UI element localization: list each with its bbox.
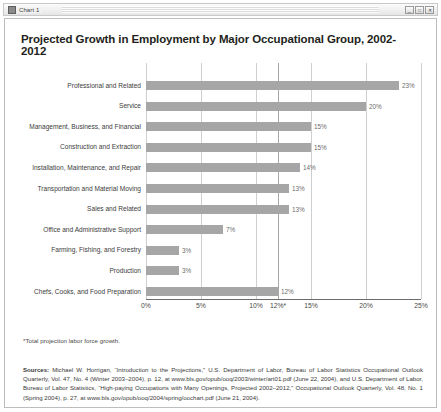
bars-area: 0%5%10%12%*15%20%25%23%20%15%15%14%13%13… <box>146 63 421 307</box>
bar-value-label: 20% <box>369 102 382 111</box>
bar-row[interactable]: 23% <box>146 81 421 90</box>
footnote: *Total projection labor force growth. <box>23 337 120 344</box>
bar[interactable] <box>146 246 179 255</box>
bar-value-label: 7% <box>226 225 235 234</box>
bar-row[interactable]: 13% <box>146 205 421 214</box>
bar[interactable] <box>146 225 223 234</box>
x-tick-label: 5% <box>196 302 206 309</box>
bar[interactable] <box>146 81 399 90</box>
bar-row[interactable]: 15% <box>146 122 421 131</box>
category-label: Office and Administrative Support <box>23 226 141 234</box>
x-tick-label: 0% <box>141 302 151 309</box>
bar-row[interactable]: 14% <box>146 163 421 172</box>
category-label: Chefs, Cooks, and Food Preparation <box>23 288 141 296</box>
gridline-20 <box>366 63 367 299</box>
sources-note: Sources: Michael W. Horrigan, “Introduct… <box>23 365 423 402</box>
bar-row[interactable]: 3% <box>146 246 421 255</box>
x-tick-label: 10% <box>249 302 263 309</box>
bar[interactable] <box>146 102 366 111</box>
bar-row[interactable]: 13% <box>146 184 421 193</box>
bar-value-label: 13% <box>292 205 305 214</box>
window-titlebar[interactable]: Chart 1 _ □ ✕ <box>3 3 438 16</box>
axis-baseline <box>146 299 421 300</box>
gridline-15 <box>311 63 312 299</box>
category-axis: Professional and RelatedServiceManagemen… <box>23 63 143 307</box>
category-label: Management, Business, and Financial <box>23 123 141 131</box>
x-tick-label: 25% <box>414 302 428 309</box>
category-label: Construction and Extraction <box>23 143 141 151</box>
bar[interactable] <box>146 143 311 152</box>
gridline-10 <box>256 63 257 299</box>
bar-value-label: 13% <box>292 184 305 193</box>
bar-row[interactable]: 20% <box>146 102 421 111</box>
gridline-12 <box>278 63 279 299</box>
titlebar-stripes <box>62 6 379 13</box>
x-tick-label: 12%* <box>270 302 286 309</box>
bar[interactable] <box>146 205 289 214</box>
chart-container: Projected Growth in Employment by Major … <box>4 18 437 408</box>
gridline-25 <box>421 63 422 299</box>
category-label: Transportation and Material Moving <box>23 185 141 193</box>
gridline-0 <box>146 63 147 299</box>
plot-area: Professional and RelatedServiceManagemen… <box>23 63 421 311</box>
maximize-button[interactable]: □ <box>415 6 424 14</box>
category-label: Sales and Related <box>23 205 141 213</box>
bar-value-label: 3% <box>182 246 191 255</box>
close-button[interactable]: ✕ <box>425 6 434 14</box>
category-label: Installation, Maintenance, and Repair <box>23 164 141 172</box>
bar[interactable] <box>146 122 311 131</box>
minimize-button[interactable]: _ <box>405 6 414 14</box>
bar-value-label: 3% <box>182 266 191 275</box>
chart-window-icon <box>8 6 16 14</box>
bar-value-label: 12% <box>281 287 294 296</box>
window-controls[interactable]: _ □ ✕ <box>405 6 435 14</box>
bar[interactable] <box>146 266 179 275</box>
chart-window: Chart 1 _ □ ✕ Projected Growth in Employ… <box>0 0 441 412</box>
bar[interactable] <box>146 184 289 193</box>
window-title: Chart 1 <box>19 7 42 13</box>
category-label: Professional and Related <box>23 82 141 90</box>
bar-row[interactable]: 7% <box>146 225 421 234</box>
bar[interactable] <box>146 163 300 172</box>
bar-value-label: 15% <box>314 122 327 131</box>
bar-row[interactable]: 15% <box>146 143 421 152</box>
category-label: Farming, Fishing, and Forestry <box>23 246 141 254</box>
gridline-5 <box>201 63 202 299</box>
bar-row[interactable]: 12% <box>146 287 421 296</box>
bar-value-label: 23% <box>402 81 415 90</box>
category-label: Service <box>23 102 141 110</box>
bar-value-label: 14% <box>303 163 316 172</box>
bar-row[interactable]: 3% <box>146 266 421 275</box>
x-tick-label: 15% <box>304 302 318 309</box>
bar-value-label: 15% <box>314 143 327 152</box>
x-tick-label: 20% <box>359 302 373 309</box>
sources-text: Michael W. Horrigan, “Introduction to th… <box>23 366 423 401</box>
axis-grid <box>146 63 421 299</box>
chart-title: Projected Growth in Employment by Major … <box>21 33 421 57</box>
category-label: Production <box>23 267 141 275</box>
bar[interactable] <box>146 287 278 296</box>
sources-label: Sources: <box>23 366 49 373</box>
